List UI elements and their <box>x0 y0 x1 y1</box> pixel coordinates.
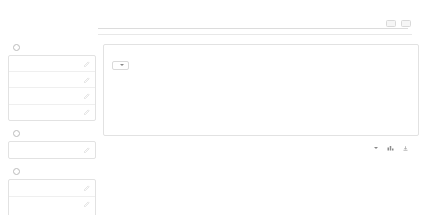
targeting-card <box>8 55 96 121</box>
help-icon[interactable] <box>13 168 20 175</box>
segment-button[interactable] <box>387 145 394 151</box>
sidebar <box>8 44 96 215</box>
chevron-down-icon <box>374 147 378 149</box>
keyword-options-header[interactable] <box>9 197 95 210</box>
results-tab-row <box>103 144 419 157</box>
header-button-group <box>386 20 411 27</box>
main-content <box>103 44 419 157</box>
modify-search-button[interactable] <box>401 20 411 27</box>
date-range-section-title <box>8 130 96 141</box>
pencil-icon[interactable] <box>84 93 90 99</box>
get-search-volume-button[interactable] <box>386 20 396 27</box>
chart-bars <box>134 75 406 131</box>
page-header <box>18 11 98 15</box>
sidebar-item-languages[interactable] <box>9 72 95 88</box>
pencil-icon[interactable] <box>84 185 90 191</box>
keyword-planner-page <box>0 0 427 215</box>
search-volume-trends-card <box>103 44 419 136</box>
pencil-icon[interactable] <box>84 109 90 115</box>
pencil-icon[interactable] <box>84 77 90 83</box>
customize-section-title <box>8 168 96 179</box>
results-toolbar <box>371 145 419 151</box>
chart-plot-area <box>134 75 406 131</box>
columns-button[interactable] <box>371 147 378 149</box>
download-icon <box>403 146 408 151</box>
pencil-icon[interactable] <box>84 201 90 207</box>
chevron-down-icon <box>120 64 124 66</box>
sidebar-item-negative-keywords[interactable] <box>9 105 95 120</box>
sidebar-item-network[interactable] <box>9 88 95 104</box>
keyword-input[interactable] <box>98 18 408 29</box>
chart-x-axis <box>134 131 406 139</box>
help-icon[interactable] <box>13 130 20 137</box>
customize-card <box>8 179 96 215</box>
chart-metric-select[interactable] <box>112 61 129 70</box>
sidebar-item-date-range[interactable] <box>9 142 95 159</box>
download-button[interactable] <box>403 146 411 151</box>
header-divider <box>98 34 412 35</box>
sidebar-item-location[interactable] <box>9 56 95 72</box>
date-range-card <box>8 141 96 160</box>
bar-chart-icon <box>387 145 394 151</box>
pencil-icon[interactable] <box>84 147 90 153</box>
sidebar-item-keyword-filters[interactable] <box>9 180 95 196</box>
pencil-icon[interactable] <box>84 61 90 67</box>
help-icon[interactable] <box>13 44 20 51</box>
targeting-section-title <box>8 44 96 55</box>
keyword-option-broadly-related[interactable] <box>9 209 95 215</box>
